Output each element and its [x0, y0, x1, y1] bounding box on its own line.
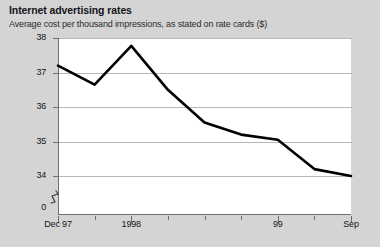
- y-axis-tick-mark: [53, 107, 58, 108]
- gridline: [59, 73, 352, 74]
- y-axis-tick-label: 37: [0, 67, 46, 77]
- x-axis-tick-mark: [95, 216, 96, 220]
- y-axis-tick-label: 38: [0, 32, 46, 42]
- page-title: Internet advertising rates: [9, 4, 132, 16]
- x-axis-tick-mark: [241, 216, 242, 220]
- y-axis-tick-label: 36: [0, 101, 46, 111]
- y-axis-tick-mark: [53, 73, 58, 74]
- gridline: [59, 107, 352, 108]
- x-axis-tick-mark: [314, 216, 315, 220]
- x-axis-tick-label: Dec 97: [28, 219, 88, 229]
- y-axis-zero-label: 0: [0, 202, 46, 212]
- y-axis-tick-mark: [53, 176, 58, 177]
- chart-subtitle: Average cost per thousand impressions, a…: [9, 19, 267, 29]
- gridline: [59, 38, 352, 39]
- gridline: [59, 176, 352, 177]
- y-axis-tick-mark: [53, 38, 58, 39]
- y-axis-tick-label: 34: [0, 170, 46, 180]
- y-axis-tick-mark: [53, 142, 58, 143]
- y-axis-tick-label: 35: [0, 136, 46, 146]
- x-axis-tick-mark: [168, 216, 169, 220]
- x-axis-tick-label: 99: [248, 219, 308, 229]
- gridline: [59, 142, 352, 143]
- x-axis-tick-label: 1998: [101, 219, 161, 229]
- x-axis-tick-label: Sep: [321, 219, 380, 229]
- x-axis-tick-mark: [205, 216, 206, 220]
- plot-area: [58, 38, 351, 215]
- chart-container: Internet advertising rates Average cost …: [0, 0, 380, 247]
